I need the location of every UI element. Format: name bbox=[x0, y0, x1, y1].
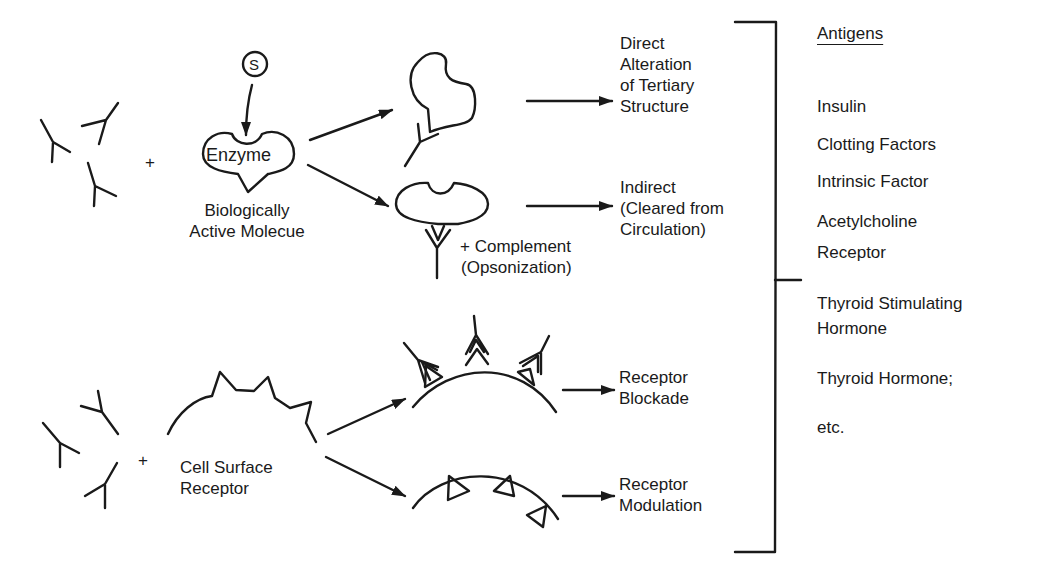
receptor-modulation-membrane bbox=[413, 476, 558, 527]
bound-antibody-icon-blockade-3 bbox=[520, 336, 549, 374]
antibody-icon-bottom-2 bbox=[81, 391, 118, 434]
opsonized-enzyme-shape bbox=[396, 183, 488, 224]
plus-sign-bottom: + bbox=[138, 451, 148, 470]
antigen-item-thyroid-stimulating: Thyroid Stimulating bbox=[817, 293, 963, 314]
antigens-heading: Antigens bbox=[817, 24, 883, 44]
antigen-item-acetylcholine: Acetylcholine bbox=[817, 211, 917, 232]
plus-sign-top: + bbox=[145, 153, 155, 172]
diagram-artwork: + + S Enzyme bbox=[0, 0, 1049, 584]
substrate-label: S bbox=[249, 56, 259, 73]
antibody-icon-bottom-3 bbox=[85, 463, 117, 508]
denatured-molecule-shape bbox=[411, 53, 475, 132]
antigen-item-receptor: Receptor bbox=[817, 242, 886, 263]
outcome-receptor-blockade: Receptor Blockade bbox=[619, 367, 689, 409]
outcome-indirect: Indirect (Cleared from Circulation) bbox=[620, 177, 724, 240]
antibody-icon-top-3 bbox=[88, 163, 116, 206]
antigen-item-insulin: Insulin bbox=[817, 96, 866, 117]
enzyme-label: Enzyme bbox=[206, 145, 271, 165]
outcome-receptor-modulation: Receptor Modulation bbox=[619, 474, 702, 516]
cell-surface-receptor-shape bbox=[168, 372, 316, 442]
arrow-cell-to-blockade bbox=[328, 399, 405, 434]
arrow-enzyme-to-direct bbox=[310, 110, 392, 140]
antigen-item-clotting-factors: Clotting Factors bbox=[817, 134, 936, 155]
antigen-item-hormone: Hormone bbox=[817, 318, 887, 339]
arrow-cell-to-modulation bbox=[326, 457, 405, 496]
antibody-icon-top-2 bbox=[82, 103, 118, 144]
biologically-active-molecule-caption: Biologically Active Molecue bbox=[167, 200, 327, 242]
antigens-bracket bbox=[735, 22, 801, 552]
complement-caption: + Complement (Opsonization) bbox=[460, 236, 572, 278]
antibody-icon-top-1 bbox=[41, 120, 70, 162]
antigen-item-intrinsic-factor: Intrinsic Factor bbox=[817, 171, 928, 192]
antigen-item-etc: etc. bbox=[817, 417, 844, 438]
bound-antibody-icon-blockade-1 bbox=[404, 343, 438, 383]
antibody-icon-bottom-1 bbox=[43, 423, 79, 467]
outcome-direct-alteration: Direct Alteration of Tertiary Structure bbox=[620, 33, 694, 117]
antigen-item-thyroid-hormone: Thyroid Hormone; bbox=[817, 368, 953, 389]
substrate-arrow bbox=[246, 85, 252, 135]
bound-antibody-icon-opsonized bbox=[426, 226, 450, 278]
cell-surface-receptor-caption: Cell Surface Receptor bbox=[180, 457, 273, 499]
